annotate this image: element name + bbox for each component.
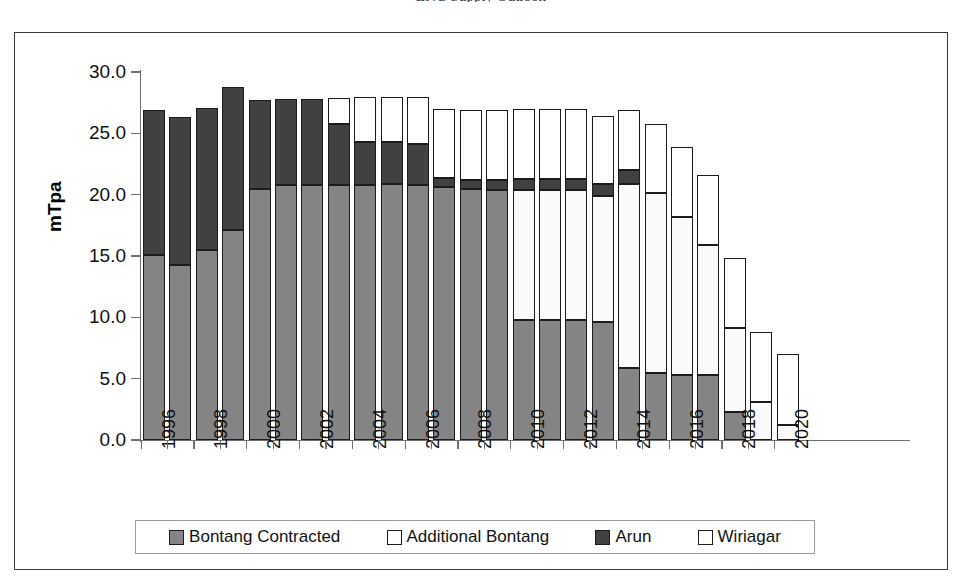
bar-stack bbox=[275, 72, 297, 440]
x-axis-tick bbox=[484, 440, 485, 449]
bar-segment bbox=[513, 179, 535, 190]
bar-segment bbox=[433, 109, 455, 178]
x-axis-tick bbox=[325, 440, 326, 449]
x-axis-tick bbox=[695, 440, 696, 449]
bar-segment bbox=[618, 184, 640, 368]
bar-segment bbox=[433, 187, 455, 440]
legend-item-label: Wiriagar bbox=[718, 527, 781, 547]
bar-segment bbox=[433, 178, 455, 188]
bar-segment bbox=[724, 328, 746, 411]
bar-segment bbox=[671, 147, 693, 217]
bar-stack bbox=[381, 72, 403, 440]
bar-segment bbox=[592, 116, 614, 183]
bar-segment bbox=[354, 185, 376, 440]
bar-stack bbox=[592, 72, 614, 440]
x-axis-tick bbox=[405, 440, 406, 449]
x-axis-tick bbox=[748, 440, 749, 449]
y-axis-tick-label: 10.0 bbox=[89, 306, 126, 328]
y-axis-tick bbox=[131, 317, 140, 318]
bar-stack bbox=[697, 72, 719, 440]
y-axis-tick-label: 30.0 bbox=[89, 61, 126, 83]
legend-item[interactable]: Arun bbox=[595, 527, 651, 547]
bar-segment bbox=[565, 190, 587, 320]
legend-item[interactable]: Wiriagar bbox=[698, 527, 781, 547]
x-axis-tick bbox=[616, 440, 617, 449]
bar-segment bbox=[645, 193, 667, 372]
x-axis-tick-label: 1998 bbox=[211, 409, 232, 449]
x-axis-tick bbox=[167, 440, 168, 449]
bar-stack bbox=[618, 72, 640, 440]
bar-stack bbox=[539, 72, 561, 440]
x-axis-tick-label: 2020 bbox=[792, 409, 813, 449]
x-axis-tick-label: 2018 bbox=[739, 409, 760, 449]
x-axis-tick bbox=[431, 440, 432, 449]
x-axis-tick-label: 2000 bbox=[264, 409, 285, 449]
x-axis-tick bbox=[642, 440, 643, 449]
bar-segment bbox=[513, 190, 535, 320]
y-axis-tick-label: 5.0 bbox=[100, 368, 126, 390]
bar-segment bbox=[750, 332, 772, 402]
bar-segment bbox=[301, 185, 323, 440]
bar-stack bbox=[565, 72, 587, 440]
x-axis-tick bbox=[141, 440, 142, 449]
legend-item[interactable]: Bontang Contracted bbox=[169, 527, 340, 547]
bar-stack bbox=[513, 72, 535, 440]
x-axis-tick bbox=[299, 440, 300, 449]
bar-segment bbox=[460, 180, 482, 189]
bar-stack bbox=[486, 72, 508, 440]
bar-stack bbox=[460, 72, 482, 440]
x-axis-tick-label: 2012 bbox=[581, 409, 602, 449]
x-axis-tick bbox=[563, 440, 564, 449]
x-axis-tick bbox=[220, 440, 221, 449]
bar-segment bbox=[381, 142, 403, 184]
bar-segment bbox=[565, 179, 587, 190]
bar-stack bbox=[169, 72, 191, 440]
bar-stack bbox=[645, 72, 667, 440]
bar-segment bbox=[697, 245, 719, 375]
bar-segment bbox=[539, 109, 561, 179]
bar-segment bbox=[328, 124, 350, 185]
figure-caption-sliver: LNG Supply Outlook bbox=[0, 0, 962, 2]
bar-segment bbox=[381, 184, 403, 440]
bar-segment bbox=[539, 179, 561, 190]
y-axis-tick-label: 0.0 bbox=[100, 429, 126, 451]
x-axis-tick bbox=[457, 440, 458, 449]
bar-stack bbox=[328, 72, 350, 440]
bar-segment bbox=[645, 124, 667, 194]
bar-stack bbox=[777, 72, 799, 440]
x-axis-tick bbox=[273, 440, 274, 449]
bar-stack bbox=[301, 72, 323, 440]
bar-segment bbox=[354, 97, 376, 142]
x-axis-tick-label: 2006 bbox=[423, 409, 444, 449]
bar-segment bbox=[565, 109, 587, 179]
bar-segment bbox=[486, 190, 508, 440]
x-axis-tick-label: 2014 bbox=[634, 409, 655, 449]
bar-segment bbox=[169, 117, 191, 264]
y-axis-tick-label: 15.0 bbox=[89, 245, 126, 267]
legend-item-label: Bontang Contracted bbox=[189, 527, 340, 547]
x-axis-tick bbox=[669, 440, 670, 449]
y-axis-tick-label: 20.0 bbox=[89, 184, 126, 206]
bar-stack bbox=[433, 72, 455, 440]
x-axis-tick bbox=[510, 440, 511, 449]
bar-segment bbox=[301, 99, 323, 185]
bar-segment bbox=[724, 258, 746, 328]
chart-figure: LNG Supply Outlook 0.05.010.015.020.025.… bbox=[0, 0, 962, 586]
bar-stack bbox=[354, 72, 376, 440]
y-axis-tick bbox=[131, 439, 140, 440]
x-axis-tick-label: 2004 bbox=[370, 409, 391, 449]
bar-segment bbox=[249, 100, 271, 188]
bar-segment bbox=[539, 190, 561, 320]
open-square-icon bbox=[698, 530, 713, 545]
legend-item[interactable]: Additional Bontang bbox=[387, 527, 550, 547]
bar-stack bbox=[724, 72, 746, 440]
x-axis-tick-label: 1996 bbox=[159, 409, 180, 449]
bar-segment bbox=[354, 142, 376, 185]
chart-legend: Bontang ContractedAdditional BontangArun… bbox=[135, 520, 815, 554]
bar-stack bbox=[196, 72, 218, 440]
bar-segment bbox=[196, 108, 218, 250]
bar-segment bbox=[460, 110, 482, 180]
x-axis-tick bbox=[193, 440, 194, 449]
bar-segment bbox=[381, 97, 403, 142]
bar-segment bbox=[486, 180, 508, 190]
